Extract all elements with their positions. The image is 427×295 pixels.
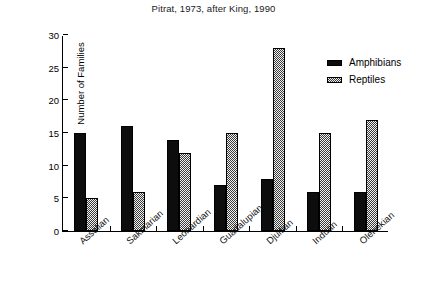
bar-group [167,36,191,231]
y-tick-label: 25 [48,62,59,73]
bar-group [74,36,98,231]
legend-item-amphibians: Amphibians [327,54,401,71]
legend-item-reptiles: Reptiles [327,71,401,88]
bar-amphibians-djulfian [261,179,273,231]
y-tick-label: 20 [48,95,59,106]
legend-label-reptiles: Reptiles [349,75,385,85]
y-tick-label: 10 [48,160,59,171]
y-tick-label: 0 [54,226,59,237]
bar-group [214,36,238,231]
bar-amphibians-olenekian [354,192,366,231]
legend-swatch-reptiles [327,77,342,83]
y-tick-label: 30 [48,30,59,41]
bar-reptiles-djulfian [273,48,285,231]
bar-group [261,36,285,231]
bar-amphibians-sakmarian [121,126,133,231]
chart-page: { "chart_data": { "type": "bar", "title"… [0,0,427,295]
bar-amphibians-leonardian [167,140,179,231]
bar-group [121,36,145,231]
y-tick: 30 [63,34,68,35]
bar-reptiles-olenekian [366,120,378,231]
y-tick-label: 5 [54,193,59,204]
bar-amphibians-asselian [74,133,86,231]
legend-swatch-amphibians [327,60,342,66]
bar-amphibians-induan [307,192,319,231]
legend-label-amphibians: Amphibians [349,58,401,68]
y-tick-label: 15 [48,128,59,139]
bar-reptiles-guadalupian [226,133,238,231]
chart-title: Pitrat, 1973, after King, 1990 [0,3,427,14]
bar-reptiles-induan [319,133,331,231]
bar-amphibians-guadalupian [214,185,226,231]
chart-legend: AmphibiansReptiles [327,54,401,88]
